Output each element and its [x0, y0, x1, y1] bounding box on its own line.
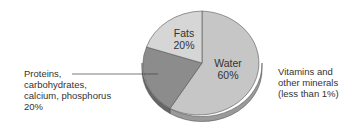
- vitamins-label: Vitamins and other minerals (less than 1…: [278, 66, 339, 99]
- water-value: 60%: [208, 69, 248, 81]
- water-name: Water: [208, 57, 248, 69]
- proteins-label: Proteins, carbohydrates, calcium, phosph…: [24, 68, 111, 112]
- vitamins-line-2: other minerals: [278, 77, 339, 88]
- proteins-line-1: Proteins,: [24, 68, 111, 79]
- fats-slice-label: Fats 20%: [166, 27, 202, 51]
- fats-name: Fats: [166, 27, 202, 39]
- proteins-line-3: calcium, phosphorus: [24, 90, 111, 101]
- water-slice-label: Water 60%: [208, 57, 248, 81]
- proteins-line-2: carbohydrates,: [24, 79, 111, 90]
- vitamins-line-3: (less than 1%): [278, 88, 339, 99]
- vitamins-line-1: Vitamins and: [278, 66, 339, 77]
- fats-value: 20%: [166, 39, 202, 51]
- proteins-value: 20%: [24, 101, 111, 112]
